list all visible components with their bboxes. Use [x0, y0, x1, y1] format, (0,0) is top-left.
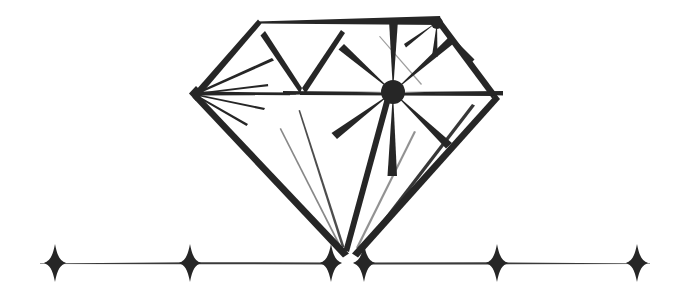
divider-rule-segment-3: [364, 262, 497, 264]
sparkle-core: [381, 80, 405, 104]
diamond-illustration: [0, 0, 687, 307]
secondary-sparkle-core: [431, 17, 443, 29]
divider-rule-segment-2: [190, 262, 331, 264]
illustration-canvas: Sparkling Diamond Gemstone with Decorati…: [0, 0, 687, 307]
